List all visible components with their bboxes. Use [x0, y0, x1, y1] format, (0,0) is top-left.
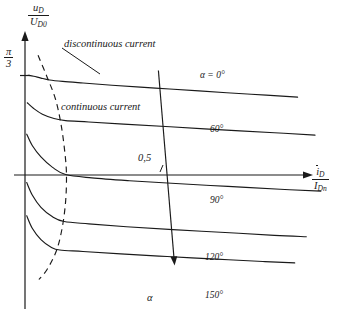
- curve-label-alpha-90: 90°: [210, 195, 223, 205]
- annotation-continuous-current: continuous current: [61, 101, 140, 112]
- alpha-axis-arrowhead: [170, 256, 177, 265]
- curve-label-alpha-0: α = 0°: [200, 70, 225, 80]
- x-axis-label: iD IDn: [312, 166, 329, 193]
- alpha-axis-label: α: [147, 292, 153, 303]
- discontinuous-label-leader-line: [62, 48, 100, 74]
- y-axis-arrowhead: [21, 31, 28, 41]
- alpha-axis-line: [158, 71, 174, 263]
- chart-canvas: [0, 0, 345, 314]
- characteristic-curve-alpha-0: [28, 75, 298, 97]
- characteristic-curve-alpha-120: [27, 183, 307, 237]
- annotation-half-value: 0,5: [138, 152, 151, 163]
- y-axis-label: uD UD0: [28, 2, 49, 29]
- half-value-tick-mark: [160, 165, 163, 172]
- characteristic-curve-alpha-150: [27, 216, 295, 263]
- figure-converter-characteristics: uD UD0 π 3 iD IDn discontinuous current …: [0, 0, 345, 314]
- annotation-discontinuous-current: discontinuous current: [64, 38, 155, 49]
- y-axis-tick-label: π 3: [4, 46, 13, 69]
- curve-label-alpha-150: 150°: [205, 290, 223, 300]
- characteristic-curve-alpha-90: [27, 134, 321, 191]
- curve-label-alpha-120: 120°: [205, 252, 223, 262]
- axes-layer: [14, 31, 313, 309]
- curve-label-alpha-60: 60°: [210, 124, 223, 134]
